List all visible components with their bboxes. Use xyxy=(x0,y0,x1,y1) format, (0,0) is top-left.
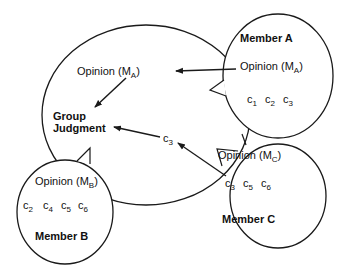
member-a-connector xyxy=(210,80,226,96)
cue-subscript: 2 xyxy=(29,205,33,214)
cue-letter: c xyxy=(283,93,289,105)
cue-letter: c xyxy=(261,177,267,189)
cue-subscript: 5 xyxy=(249,183,253,192)
arrow-group-opinion-to-judgment xyxy=(95,78,126,107)
member-a-title: Member A xyxy=(240,33,293,44)
member-c-opinion-close: ) xyxy=(278,149,282,161)
cue-subscript: 3 xyxy=(231,183,235,192)
cue-letter: c xyxy=(78,199,84,211)
shared-cue-c3: c3 xyxy=(163,133,173,144)
member-a-cue-2: c2 xyxy=(265,94,275,105)
member-c-opinion-subscript: C xyxy=(272,155,278,164)
member-c-title: Member C xyxy=(222,214,275,225)
shared-cue-letter: c xyxy=(163,132,169,144)
arrow-shared-cue-to-judgment xyxy=(114,127,160,137)
cue-subscript: 6 xyxy=(84,205,88,214)
group-judgment-line2: Judgment xyxy=(53,123,106,134)
member-b-cue-2: c4 xyxy=(43,200,53,211)
group-opinion-label: Opinion (MA) xyxy=(77,66,140,77)
cue-subscript: 6 xyxy=(267,183,271,192)
member-a-cue-1: c1 xyxy=(247,94,257,105)
cue-letter: c xyxy=(265,93,271,105)
cue-subscript: 2 xyxy=(271,99,275,108)
member-b-cue-1: c2 xyxy=(23,200,33,211)
cue-letter: c xyxy=(247,93,253,105)
member-b-opinion-close: ) xyxy=(94,175,98,187)
cue-subscript: 1 xyxy=(253,99,257,108)
cue-letter: c xyxy=(23,199,29,211)
member-a-opinion-text: Opinion (M xyxy=(240,60,294,72)
cue-subscript: 5 xyxy=(67,205,71,214)
cue-subscript: 4 xyxy=(49,205,53,214)
group-opinion-close: ) xyxy=(136,65,140,77)
cue-letter: c xyxy=(61,199,67,211)
member-b-cue-4: c6 xyxy=(78,200,88,211)
group-opinion-subscript: A xyxy=(131,71,136,80)
member-b-opinion-text: Opinion (M xyxy=(35,175,89,187)
cue-subscript: 3 xyxy=(289,99,293,108)
member-c-opinion: Opinion (MC) xyxy=(218,150,281,161)
member-a-opinion-subscript: A xyxy=(294,66,299,75)
member-b-opinion-subscript: B xyxy=(89,181,94,190)
shared-cue-subscript: 3 xyxy=(169,138,173,147)
member-c-cue-2: c5 xyxy=(243,178,253,189)
member-b-title: Member B xyxy=(35,231,88,242)
member-c-cue-3: c6 xyxy=(261,178,271,189)
member-c-opinion-text: Opinion (M xyxy=(218,149,272,161)
cue-letter: c xyxy=(225,177,231,189)
member-a-opinion: Opinion (MA) xyxy=(240,61,303,72)
member-a-cue-3: c3 xyxy=(283,94,293,105)
member-b-opinion: Opinion (MB) xyxy=(35,176,98,187)
cue-letter: c xyxy=(43,199,49,211)
cue-letter: c xyxy=(243,177,249,189)
member-a-opinion-close: ) xyxy=(299,60,303,72)
group-judgment-line1: Group xyxy=(53,111,86,122)
member-c-cue-1: c3 xyxy=(225,178,235,189)
group-opinion-text: Opinion (M xyxy=(77,65,131,77)
member-b-cue-3: c5 xyxy=(61,200,71,211)
